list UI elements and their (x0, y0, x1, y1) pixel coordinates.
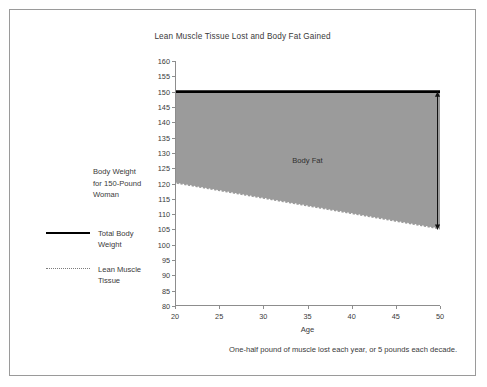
y-axis-tick-label: 135 (158, 133, 170, 142)
chart-title: Lean Muscle Tissue Lost and Body Fat Gai… (10, 32, 475, 41)
y-axis-tick-label: 150 (158, 87, 170, 96)
y-axis-tick-label: 85 (162, 286, 170, 295)
y-axis-tick-mark (172, 107, 175, 108)
legend-swatch-total-body-weight (46, 232, 90, 234)
y-axis-tick-label: 105 (158, 225, 170, 234)
y-axis-tick-mark (172, 229, 175, 230)
x-axis-tick-mark (175, 306, 176, 309)
y-axis-tick-mark (172, 291, 175, 292)
x-axis-tick-label: 40 (348, 312, 356, 321)
x-axis-tick-label: 25 (215, 312, 223, 321)
y-axis-tick-label: 120 (158, 179, 170, 188)
y-axis-tick-mark (172, 76, 175, 77)
y-axis-tick-label: 100 (158, 240, 170, 249)
y-axis-tick-mark (172, 92, 175, 93)
x-axis-tick-mark (263, 306, 264, 309)
y-axis-tick-mark (172, 245, 175, 246)
x-axis-tick-label: 35 (303, 312, 311, 321)
y-axis-tick-label: 125 (158, 164, 170, 173)
y-axis-tick-label: 95 (162, 256, 170, 265)
y-axis-tick-label: 160 (158, 57, 170, 66)
y-axis-tick-mark (172, 184, 175, 185)
x-axis-tick-mark (396, 306, 397, 309)
legend-label-line-1: Total Body (98, 228, 133, 239)
legend-label-line-2: Tissue (98, 275, 141, 286)
x-axis-tick-mark (440, 306, 441, 309)
y-axis-tick-label: 115 (158, 194, 170, 203)
chart-caption: One-half pound of muscle lost each year,… (10, 345, 457, 354)
x-axis-tick-mark (352, 306, 353, 309)
y-axis-tick-mark (172, 168, 175, 169)
y-axis-tick-mark (172, 122, 175, 123)
y-axis-tick-mark (172, 153, 175, 154)
figure-panel: Lean Muscle Tissue Lost and Body Fat Gai… (9, 9, 476, 376)
y-axis-tick-label: 110 (158, 210, 170, 219)
x-axis-tick-mark (308, 306, 309, 309)
y-axis-tick-mark (172, 260, 175, 261)
y-axis-tick-label: 80 (162, 302, 170, 311)
y-axis-tick-mark (172, 61, 175, 62)
plot-axes-frame (175, 61, 440, 306)
legend-label-total-body-weight: Total Body Weight (98, 228, 133, 251)
x-axis-tick-label: 45 (392, 312, 400, 321)
x-axis-tick-label: 20 (171, 312, 179, 321)
legend-label-line-1: Lean Muscle (98, 264, 141, 275)
legend-swatch-lean-muscle-tissue (46, 268, 90, 269)
x-axis-tick-label: 30 (259, 312, 267, 321)
x-axis-title: Age (175, 325, 440, 334)
chart-legend: Total Body Weight Lean Muscle Tissue (46, 228, 171, 299)
y-axis-tick-mark (172, 214, 175, 215)
y-axis-tick-label: 155 (158, 72, 170, 81)
plot-area: Body Fat 8085909510010511011512012513013… (175, 61, 440, 306)
y-axis-tick-mark (172, 199, 175, 200)
legend-item-lean-muscle-tissue: Lean Muscle Tissue (46, 264, 171, 287)
y-axis-tick-label: 145 (158, 102, 170, 111)
x-axis-tick-label: 50 (436, 312, 444, 321)
y-axis-tick-label: 130 (158, 148, 170, 157)
y-axis-tick-label: 90 (162, 271, 170, 280)
y-axis-tick-mark (172, 138, 175, 139)
x-axis-tick-mark (219, 306, 220, 309)
legend-label-lean-muscle-tissue: Lean Muscle Tissue (98, 264, 141, 287)
legend-item-total-body-weight: Total Body Weight (46, 228, 171, 251)
y-axis-tick-mark (172, 275, 175, 276)
legend-label-line-2: Weight (98, 239, 133, 250)
y-axis-tick-label: 140 (158, 118, 170, 127)
